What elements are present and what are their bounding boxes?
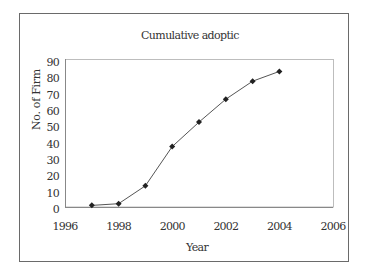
data-point-marker bbox=[116, 201, 122, 207]
data-point-marker bbox=[142, 183, 148, 189]
data-point-marker bbox=[250, 78, 256, 84]
series-line bbox=[92, 71, 280, 205]
plot-area bbox=[0, 0, 370, 277]
plot-border bbox=[66, 60, 334, 208]
data-point-marker bbox=[276, 68, 282, 74]
data-series bbox=[89, 68, 283, 208]
